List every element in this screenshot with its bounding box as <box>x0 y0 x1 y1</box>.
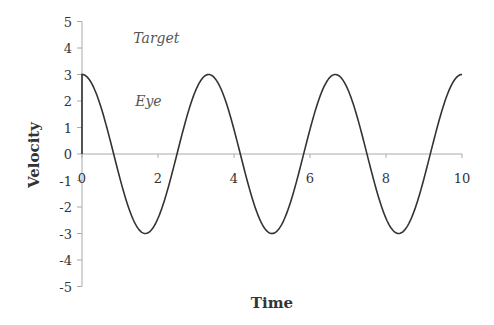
y-axis-title: Velocity <box>25 121 43 189</box>
annotations: TargetEye <box>133 30 180 110</box>
y-tick-label: -3 <box>59 227 72 242</box>
y-tick-label: 0 <box>64 147 72 162</box>
y-tick-label: -1 <box>59 174 72 189</box>
x-axis: 0246810 <box>78 154 470 186</box>
x-tick-label: 2 <box>154 171 162 186</box>
y-axis: 543210-1-2-3-4-5 <box>59 15 82 295</box>
y-tick-label: 5 <box>64 15 72 30</box>
annotation-eye: Eye <box>134 93 161 109</box>
y-tick-label: -4 <box>59 253 72 268</box>
x-axis-title: Time <box>251 294 293 312</box>
x-tick-label: 6 <box>306 171 314 186</box>
y-tick-label: 3 <box>64 68 72 83</box>
annotation-target: Target <box>133 30 180 46</box>
x-tick-label: 10 <box>454 171 471 186</box>
x-tick-label: 8 <box>382 171 390 186</box>
y-tick-label: 1 <box>64 121 72 136</box>
y-tick-label: -5 <box>59 280 72 295</box>
y-tick-label: 2 <box>64 94 72 109</box>
y-tick-label: 4 <box>64 41 72 56</box>
x-tick-label: 0 <box>78 171 86 186</box>
y-tick-label: -2 <box>59 200 72 215</box>
chart: 543210-1-2-3-4-5 0246810 Time Velocity T… <box>0 0 494 325</box>
x-tick-label: 4 <box>230 171 238 186</box>
